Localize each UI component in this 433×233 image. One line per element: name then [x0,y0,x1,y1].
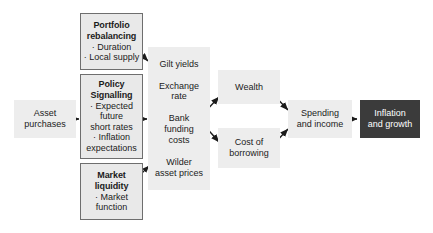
policy-signalling-bullet-1-cont: future [100,111,123,122]
market-liquidity-title-1: Market [97,170,125,181]
panel-item-gilt-yields: Gilt yields [159,59,198,70]
node-asset-purchases: Asset purchases [14,100,76,138]
transmission-mechanism-diagram: Asset purchases Portfolio rebalancing · … [0,0,433,233]
portfolio-rebalancing-title-2: rebalancing [87,31,136,42]
panel-item-exchange-rate: Exchange rate [159,81,199,103]
wealth-line-1: Wealth [235,82,263,93]
policy-signalling-bullet-2-cont: expectations [86,143,137,154]
node-inflation-and-growth: Inflation and growth [360,100,420,138]
node-wealth: Wealth [218,70,280,104]
node-spending-and-income: Spending and income [288,100,352,138]
bank-funding-costs-line-1: Bank [164,113,194,124]
spending-and-income-line-2: and income [297,119,344,130]
portfolio-rebalancing-bullet-2: · Local supply [84,52,140,63]
asset-purchases-line-2: purchases [24,119,66,130]
spending-and-income-line-1: Spending [301,108,339,119]
inflation-and-growth-line-2: and growth [368,119,413,130]
policy-signalling-title-1: Policy [99,79,125,90]
policy-signalling-bullet-1: · Expected [90,101,133,112]
portfolio-rebalancing-title-1: Portfolio [93,20,129,31]
node-market-liquidity: Market liquidity · Market function [80,163,143,220]
cost-of-borrowing-line-2: borrowing [229,148,269,159]
exchange-rate-line-2: rate [159,91,199,102]
node-cost-of-borrowing: Cost of borrowing [218,128,280,168]
wilder-asset-prices-line-2: asset prices [155,168,203,179]
bank-funding-costs-line-2: funding [164,124,194,135]
market-liquidity-bullet-1: · Market [95,192,128,203]
market-liquidity-bullet-1-cont: function [96,202,128,213]
node-portfolio-rebalancing: Portfolio rebalancing · Duration · Local… [80,13,143,70]
bank-funding-costs-line-3: costs [164,135,194,146]
exchange-rate-line-1: Exchange [159,81,199,92]
asset-purchases-line-1: Asset [34,108,57,119]
portfolio-rebalancing-bullet-1: · Duration [92,42,132,53]
policy-signalling-bullet-2: · Inflation [93,132,130,143]
node-transmission-panel: Gilt yields Exchange rate Bank funding c… [148,47,210,190]
cost-of-borrowing-line-1: Cost of [235,137,264,148]
panel-item-wilder-asset-prices: Wilder asset prices [155,157,203,179]
inflation-and-growth-line-1: Inflation [374,108,406,119]
gilt-yields-line-1: Gilt yields [159,59,198,70]
node-policy-signalling: Policy Signalling · Expected future shor… [80,74,143,159]
market-liquidity-title-2: liquidity [95,181,129,192]
panel-item-bank-funding-costs: Bank funding costs [164,113,194,145]
wilder-asset-prices-line-1: Wilder [155,157,203,168]
policy-signalling-title-2: Signalling [90,90,132,101]
policy-signalling-bullet-1-cont2: short rates [90,122,133,133]
